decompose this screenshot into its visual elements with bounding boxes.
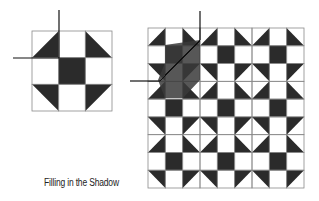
tiled-block-grid	[130, 11, 304, 188]
single-block	[13, 10, 112, 111]
quilt-diagram	[0, 0, 319, 201]
figure-caption: Filling in the Shadow	[44, 177, 119, 188]
